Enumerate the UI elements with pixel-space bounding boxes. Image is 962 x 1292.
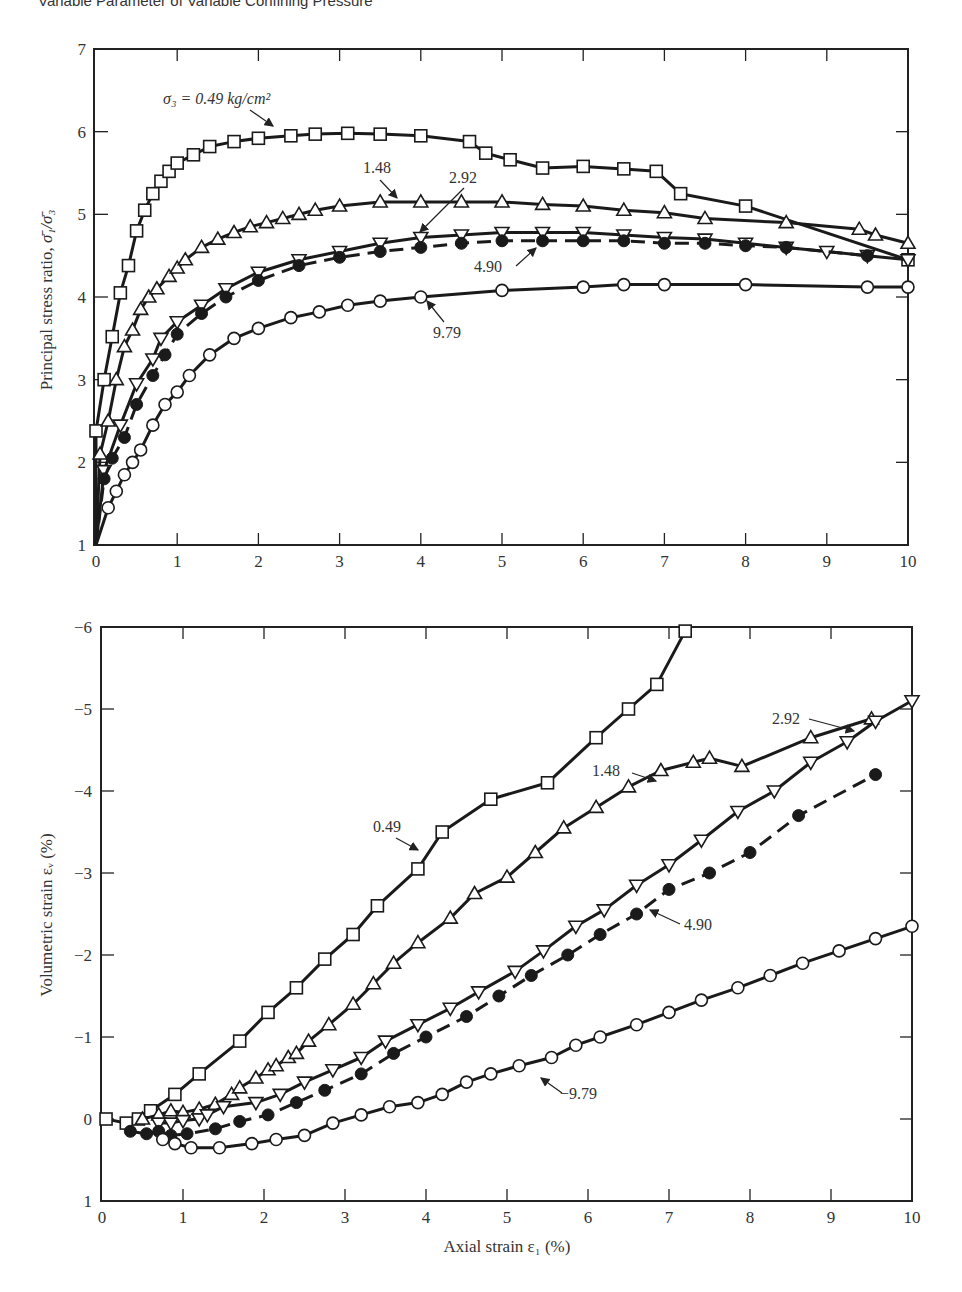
- data-point-open-circle: [342, 299, 354, 311]
- data-point-open-circle: [570, 1039, 582, 1051]
- x-tick-label: 4: [417, 552, 426, 571]
- data-point-open-square: [415, 130, 427, 142]
- annotation-1.48: 1.48: [592, 762, 620, 779]
- data-point-open-triangle-down: [379, 1036, 393, 1048]
- arrow-9.79: [541, 1078, 562, 1093]
- data-point-open-square: [122, 260, 134, 272]
- x-tick-label: 10: [900, 552, 917, 571]
- arrow-4.90: [516, 248, 536, 266]
- data-point-open-triangle-up: [164, 1104, 178, 1116]
- data-point-filled-circle: [141, 1128, 153, 1140]
- data-point-open-triangle-down: [905, 696, 919, 708]
- data-point-open-square: [436, 826, 448, 838]
- x-tick-label: 9: [827, 1208, 836, 1227]
- data-point-open-square: [618, 163, 630, 175]
- data-point-filled-circle: [220, 291, 232, 303]
- x-tick-label: 5: [503, 1208, 512, 1227]
- data-point-open-circle: [127, 456, 139, 468]
- data-point-open-square: [252, 132, 264, 144]
- annotation-0.49: 0.49: [373, 818, 401, 835]
- series-line-2.92: [96, 233, 908, 546]
- data-point-open-triangle-down: [767, 786, 781, 798]
- data-point-filled-circle: [780, 241, 792, 253]
- x-tick-label: 7: [660, 552, 669, 571]
- data-point-open-square: [147, 188, 159, 200]
- data-point-filled-circle: [704, 867, 716, 879]
- data-point-filled-circle: [420, 1031, 432, 1043]
- data-point-open-triangle-up: [233, 1081, 247, 1093]
- data-point-open-circle: [159, 398, 171, 410]
- data-point-open-circle: [204, 349, 216, 361]
- data-point-filled-circle: [181, 1128, 193, 1140]
- data-point-open-circle: [169, 1138, 181, 1150]
- data-point-open-square: [542, 777, 554, 789]
- data-point-filled-circle: [415, 241, 427, 253]
- data-point-filled-circle: [334, 251, 346, 263]
- data-point-open-circle: [213, 1142, 225, 1154]
- data-point-open-square: [504, 154, 516, 166]
- x-tick-label: 3: [335, 552, 344, 571]
- data-point-open-circle: [157, 1134, 169, 1146]
- x-tick-label: 6: [584, 1208, 593, 1227]
- data-point-filled-circle: [293, 260, 305, 272]
- data-point-open-square: [290, 982, 302, 994]
- data-point-filled-circle: [131, 398, 143, 410]
- data-point-open-square: [480, 147, 492, 159]
- data-point-filled-circle: [461, 1011, 473, 1023]
- data-point-open-triangle-down: [154, 333, 168, 345]
- y-tick-label: 7: [78, 40, 87, 59]
- x-tick-label: 7: [665, 1208, 674, 1227]
- data-point-open-square: [98, 374, 110, 386]
- data-point-open-triangle-down: [597, 905, 611, 917]
- x-tick-label: 2: [260, 1208, 269, 1227]
- data-point-open-square: [577, 160, 589, 172]
- x-tick-label: 10: [904, 1208, 921, 1227]
- data-point-filled-circle: [870, 769, 882, 781]
- data-point-open-circle: [412, 1097, 424, 1109]
- data-point-open-square: [347, 929, 359, 941]
- y-tick-label: 2: [78, 453, 87, 472]
- data-point-open-circle: [313, 306, 325, 318]
- data-point-open-triangle-up: [269, 1059, 283, 1071]
- data-point-open-square: [675, 188, 687, 200]
- series-line-4.90: [130, 775, 875, 1136]
- data-point-open-circle: [327, 1117, 339, 1129]
- data-point-open-square: [740, 200, 752, 212]
- data-point-filled-circle: [98, 473, 110, 485]
- y-tick-label: −1: [74, 1028, 92, 1047]
- y-tick-label: −3: [74, 864, 92, 883]
- data-point-open-square: [171, 157, 183, 169]
- data-point-open-circle: [299, 1129, 311, 1141]
- data-point-open-square: [412, 863, 424, 875]
- data-point-filled-circle: [159, 349, 171, 361]
- data-point-filled-circle: [388, 1047, 400, 1059]
- data-point-open-circle: [384, 1101, 396, 1113]
- annotation-4.90: 4.90: [474, 258, 502, 275]
- data-point-open-square: [319, 953, 331, 965]
- data-point-open-triangle-down: [472, 987, 486, 999]
- data-point-filled-circle: [793, 810, 805, 822]
- x-tick-label: 4: [422, 1208, 431, 1227]
- x-tick-label: 6: [579, 552, 588, 571]
- data-point-open-triangle-up: [117, 340, 131, 352]
- data-point-open-square: [374, 128, 386, 140]
- data-point-open-circle: [577, 281, 589, 293]
- data-point-open-circle: [594, 1031, 606, 1043]
- data-point-filled-circle: [262, 1109, 274, 1121]
- data-point-filled-circle: [744, 847, 756, 859]
- data-point-open-square: [679, 625, 691, 637]
- data-point-open-triangle-down: [130, 379, 144, 391]
- data-point-open-circle: [102, 502, 114, 514]
- data-point-open-triangle-up: [109, 373, 123, 385]
- x-tick-label: 5: [498, 552, 507, 571]
- volumetric-strain-chart: 01234567891010−1−2−3−4−5−6 Volumetric st…: [37, 618, 921, 1256]
- x-tick-label: 2: [254, 552, 263, 571]
- top-y-axis-title: Principal stress ratio, σ̄₁/σ̄₃: [37, 210, 56, 391]
- data-point-filled-circle: [319, 1084, 331, 1096]
- data-point-filled-circle: [631, 908, 643, 920]
- data-point-open-circle: [415, 291, 427, 303]
- x-tick-label: 1: [179, 1208, 188, 1227]
- data-point-open-square: [139, 204, 151, 216]
- data-point-open-square: [204, 141, 216, 153]
- data-point-open-circle: [147, 419, 159, 431]
